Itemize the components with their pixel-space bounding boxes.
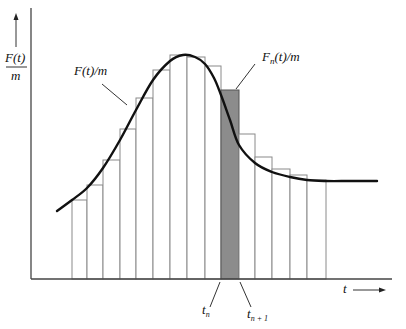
curve-label: F(t)/m	[73, 63, 107, 78]
strip	[136, 98, 153, 279]
y-label-denominator: m	[11, 68, 20, 83]
strip	[255, 157, 272, 279]
tn1-leader	[240, 282, 251, 307]
strip	[307, 180, 326, 279]
impulse-diagram: F(t) m F(t)/m Fn(t)/m tn tn + 1 t	[0, 0, 406, 329]
strip	[153, 70, 170, 279]
strip	[72, 200, 87, 279]
strip-group	[72, 55, 326, 279]
shaded-label-leader	[236, 64, 255, 89]
strip	[170, 55, 187, 279]
strip	[205, 66, 221, 279]
y-arrowhead-icon	[14, 13, 19, 20]
strip	[87, 185, 103, 279]
y-label-numerator: F(t)	[4, 50, 25, 65]
tn-sub: n	[206, 310, 210, 319]
strip	[272, 169, 290, 279]
tn-leader	[210, 282, 220, 307]
x-arrowhead-icon	[379, 288, 386, 293]
tick-label-tn1: tn + 1	[247, 306, 268, 323]
curve-label-leader	[102, 84, 127, 105]
strip	[290, 175, 307, 279]
strip	[120, 129, 136, 279]
shaded-label-suffix: (t)/m	[274, 49, 299, 64]
strip	[103, 160, 120, 279]
x-label: t	[343, 281, 347, 296]
strip	[187, 57, 205, 279]
tn1-sub: n + 1	[251, 314, 268, 323]
tick-label-tn: tn	[202, 302, 210, 319]
shaded-strip-label: Fn(t)/m	[261, 49, 300, 66]
